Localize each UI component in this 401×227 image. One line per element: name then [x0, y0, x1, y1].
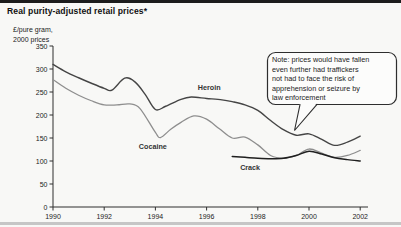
x-tick-label: 1990 — [45, 213, 61, 220]
y-tick-label: 50 — [40, 181, 48, 188]
x-tick-label: 2002 — [352, 213, 368, 220]
x-tick-label: 1996 — [199, 213, 215, 220]
y-tick-label: 200 — [36, 112, 48, 119]
note-callout-line: apprehension or seizure by — [272, 84, 394, 94]
note-callout-line: Note: prices would have fallen — [272, 55, 394, 65]
y-tick-label: 300 — [36, 66, 48, 73]
y-tick-label: 100 — [36, 158, 48, 165]
series-label-crack: Crack — [240, 163, 260, 172]
x-tick-label: 2000 — [301, 213, 317, 220]
price-figure: Real purity-adjusted retail prices* £/pu… — [0, 0, 401, 227]
note-callout-line: not had to face the risk of — [272, 74, 394, 84]
bottom-rule — [0, 222, 401, 225]
note-callout-line: even further had traffickers — [272, 65, 394, 75]
series-label-cocaine: Cocaine — [139, 142, 167, 151]
y-tick-label: 250 — [36, 89, 48, 96]
x-tick-label: 1994 — [148, 213, 164, 220]
note-callout-text: Note: prices would have falleneven furth… — [272, 55, 394, 103]
y-tick-label: 0 — [44, 204, 48, 211]
series-line-crack — [232, 151, 360, 161]
price-chart: 0501001502002503003501990199219941996199… — [0, 0, 401, 227]
y-tick-label: 350 — [36, 43, 48, 50]
y-tick-label: 150 — [36, 135, 48, 142]
x-tick-label: 1998 — [250, 213, 266, 220]
x-tick-label: 1992 — [96, 213, 112, 220]
note-callout-line: law enforcement — [272, 93, 394, 103]
series-label-heroin: Heroin — [198, 83, 221, 92]
